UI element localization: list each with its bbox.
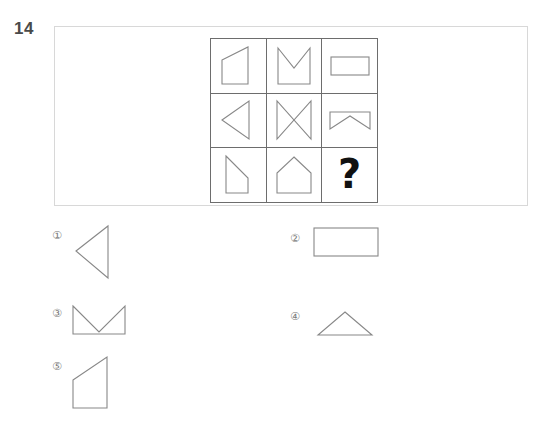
- shape-quadrilateral-slanted-top-right: [218, 153, 258, 197]
- option-1-label: ①: [52, 230, 62, 241]
- option-5-label: ⑤: [52, 361, 62, 372]
- option-2-label: ②: [290, 233, 300, 244]
- shape-bowtie-hourglass: [273, 98, 315, 142]
- matrix-cell-r2c2[interactable]: [267, 94, 323, 149]
- option-5-shape-quadrilateral-slanted-top-left: [70, 355, 126, 411]
- shape-left-pointing-triangle: [218, 98, 258, 142]
- matrix-cell-r2c3[interactable]: [322, 94, 378, 149]
- matrix-cell-r3c3-missing[interactable]: ?: [322, 148, 378, 203]
- option-4-label: ④: [290, 311, 300, 322]
- shape-horizontal-rectangle: [328, 44, 372, 88]
- matrix-cell-r3c1[interactable]: [211, 148, 267, 203]
- stimulus-frame: ?: [54, 26, 528, 206]
- option-3-label: ③: [52, 308, 62, 319]
- matrix-cell-r1c2[interactable]: [267, 39, 323, 94]
- option-4-shape-upward-pointing-triangle: [314, 309, 376, 339]
- matrix-cell-r1c1[interactable]: [211, 39, 267, 94]
- shape-square-with-top-v-notch: [273, 44, 315, 88]
- matrix-grid: ?: [210, 38, 378, 203]
- shape-rectangle-with-bottom-v-notch: [327, 98, 373, 142]
- question-number: 14: [14, 20, 34, 37]
- option-3-shape-rectangle-with-top-v-notch: [70, 303, 132, 339]
- matrix-cell-r3c2[interactable]: [267, 148, 323, 203]
- shape-house-pentagon: [272, 153, 316, 197]
- matrix-cell-r2c1[interactable]: [211, 94, 267, 149]
- option-2-shape-horizontal-rectangle: [312, 224, 384, 260]
- shape-right-trapezoid-slanted-top-left: [218, 44, 258, 88]
- option-1-shape-left-pointing-triangle: [72, 224, 126, 280]
- question-mark: ?: [338, 154, 361, 194]
- matrix-cell-r1c3[interactable]: [322, 39, 378, 94]
